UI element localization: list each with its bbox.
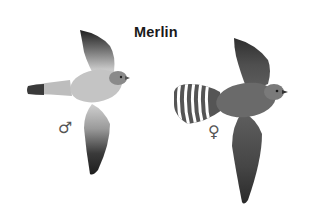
female-symbol-icon: ♀ xyxy=(208,124,220,140)
male-merlin-illustration xyxy=(0,0,160,216)
female-merlin-figure xyxy=(160,0,311,216)
illustration-canvas: Merlin xyxy=(0,0,311,216)
male-merlin-figure xyxy=(0,0,160,216)
female-merlin-illustration xyxy=(160,0,311,216)
male-symbol-icon: ♂ xyxy=(58,120,72,136)
